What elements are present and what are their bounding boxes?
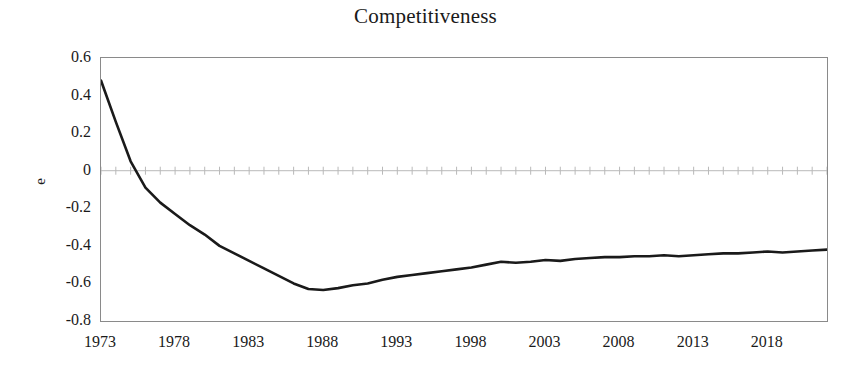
x-tick-label: 1988 <box>292 334 352 350</box>
x-tick-label: 1993 <box>366 334 426 350</box>
y-tick-label: 0.4 <box>71 87 91 103</box>
plot-area <box>100 57 828 322</box>
y-tick-label: -0.8 <box>66 312 91 328</box>
chart-title: Competitiveness <box>0 4 851 29</box>
x-tick-label: 1973 <box>70 334 130 350</box>
x-tick-label: 1998 <box>440 334 500 350</box>
data-line-series-e <box>101 81 827 290</box>
x-tick-label: 2008 <box>589 334 649 350</box>
y-tick-label: 0 <box>83 162 91 178</box>
y-tick-label: -0.6 <box>66 274 91 290</box>
x-tick-label: 1978 <box>144 334 204 350</box>
zero-line <box>101 167 827 175</box>
x-tick-label: 1983 <box>218 334 278 350</box>
y-tick-label: 0.6 <box>71 49 91 65</box>
x-tick-label: 2013 <box>663 334 723 350</box>
chart-figure: Competitiveness e 0.60.40.20-0.2-0.4-0.6… <box>0 0 851 372</box>
y-tick-label: -0.2 <box>66 199 91 215</box>
x-tick-label: 2003 <box>514 334 574 350</box>
y-tick-label: 0.2 <box>71 124 91 140</box>
y-axis-tick-labels: 0.60.40.20-0.2-0.4-0.6-0.8 <box>40 57 95 322</box>
x-tick-label: 2018 <box>737 334 797 350</box>
plot-svg <box>101 58 827 321</box>
y-tick-label: -0.4 <box>66 237 91 253</box>
x-axis-tick-labels: 1973197819831988199319982003200820132018 <box>0 334 851 360</box>
